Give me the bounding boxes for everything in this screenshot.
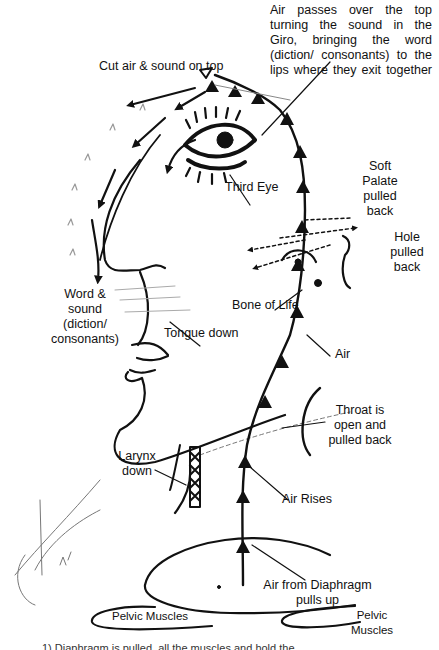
label-soft-palate: Soft Palate pulled back [355,159,405,219]
label-air-passes: Air passes over the top turning the soun… [270,3,432,78]
label-pelvic-muscles-right: Pelvic Muscles [348,608,396,638]
signature-scribble [15,480,100,605]
label-larynx-down: Larynx down [112,449,162,479]
label-air-rises: Air Rises [282,492,332,507]
label-hole-pulled-back: Hole pulled back [382,230,432,275]
label-pelvic-muscles-left: Pelvic Muscles [112,609,188,624]
label-air-from-diaphragm: Air from Diaphragm pulls up [255,578,380,608]
vocal-anatomy-diagram: Air passes over the top turning the soun… [0,0,439,650]
label-cut-air: Cut air & sound on top [99,59,223,74]
label-tongue-down: Tongue down [164,326,238,341]
label-air: Air [335,347,350,362]
caption-cut-off: 1) Diaphragm is pulled, all the muscles … [42,641,304,650]
larynx-drawing [190,447,200,507]
label-third-eye: Third Eye [225,180,279,195]
label-word-sound: Word & sound (diction/ consonants) [45,287,125,347]
label-bone-of-life: Bone of Life [232,298,299,313]
label-throat-open: Throat is open and pulled back [320,403,400,448]
